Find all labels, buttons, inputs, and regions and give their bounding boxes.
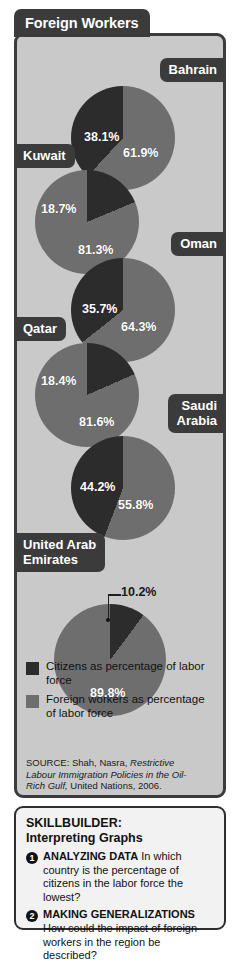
number-badge-1-icon: 1 — [26, 852, 38, 864]
pie-value-bahrain-foreign: 61.9% — [123, 146, 158, 160]
legend-item-citizens: Citizens as percentage of labor force — [26, 660, 206, 687]
pie-value-kuwait-citizens: 18.7% — [41, 202, 76, 216]
skillbuilder-question-2-text: How could the impact of foreign workers … — [43, 922, 197, 961]
skillbuilder-question-1-lead: ANALYZING DATA — [43, 850, 138, 862]
pie-value-saudi-foreign: 55.8% — [118, 498, 153, 512]
uae-callout-dot — [106, 618, 110, 622]
source-note: SOURCE: Shah, Nasra, Restrictive Labour … — [26, 757, 202, 792]
skillbuilder-question-2-body: MAKING GENERALIZATIONSHow could the impa… — [43, 908, 215, 962]
country-tab-oman: Oman — [171, 232, 223, 256]
pie-value-oman-foreign: 64.3% — [121, 320, 156, 334]
page-title: Foreign Workers — [25, 15, 138, 31]
skillbuilder-subtitle: Interpreting Graphs — [26, 831, 215, 846]
pie-value-kuwait-foreign: 81.3% — [78, 243, 113, 257]
country-tab-qatar: Qatar — [17, 317, 66, 341]
legend-item-foreign-workers: Foreign workers as percentage of labor f… — [26, 693, 206, 720]
skillbuilder-box: SKILLBUILDER: Interpreting Graphs 1 ANAL… — [14, 806, 226, 930]
country-tab-kuwait: Kuwait — [17, 144, 75, 168]
pie-value-bahrain-citizens: 38.1% — [84, 130, 119, 144]
pie-chart-qatar: 18.4% 81.6% — [35, 343, 139, 447]
uae-callout-leader-vertical — [108, 594, 110, 620]
pie-value-uae-citizens: 10.2% — [121, 585, 156, 599]
skillbuilder-question-1-body: ANALYZING DATA In which country is the p… — [43, 850, 215, 904]
source-suffix: United Nations, 2006. — [68, 780, 162, 791]
source-prefix: SOURCE: Shah, Nasra, — [26, 757, 130, 768]
pie-value-qatar-citizens: 18.4% — [41, 374, 76, 388]
pie-value-qatar-foreign: 81.6% — [79, 415, 114, 429]
legend-label-foreign-workers: Foreign workers as percentage of labor f… — [46, 693, 206, 720]
skillbuilder-title: SKILLBUILDER: — [26, 816, 215, 831]
uae-callout-leader-horizontal — [108, 594, 121, 596]
legend-label-citizens: Citizens as percentage of labor force — [46, 660, 206, 687]
legend-swatch-citizens-icon — [26, 662, 39, 675]
skillbuilder-question-1: 1 ANALYZING DATA In which country is the… — [26, 850, 215, 904]
pie-value-saudi-citizens: 44.2% — [80, 480, 115, 494]
chart-legend: Citizens as percentage of labor force Fo… — [26, 660, 206, 726]
pie-chart-saudi-arabia: 44.2% 55.8% — [71, 436, 175, 540]
skillbuilder-question-2: 2 MAKING GENERALIZATIONSHow could the im… — [26, 908, 215, 962]
number-badge-2-icon: 2 — [26, 910, 38, 922]
pie-value-oman-citizens: 35.7% — [82, 302, 117, 316]
figure-title-tab: Foreign Workers — [14, 9, 150, 37]
skillbuilder-question-2-lead: MAKING GENERALIZATIONS — [43, 908, 195, 920]
country-tab-uae: United Arab Emirates — [17, 533, 105, 572]
legend-swatch-foreign-icon — [26, 695, 39, 708]
pie-slices-qatar — [35, 343, 139, 447]
country-tab-saudi-arabia: Saudi Arabia — [168, 394, 223, 433]
country-tab-bahrain: Bahrain — [160, 58, 223, 82]
